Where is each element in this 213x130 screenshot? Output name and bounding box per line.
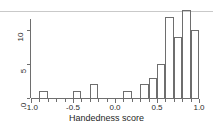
histogram-bar: [140, 84, 148, 98]
x-axis-tick-label: -0.5: [61, 103, 85, 112]
x-axis-tick-label: 1.0: [187, 103, 211, 112]
y-axis-tick: [27, 30, 30, 31]
histogram-bar: [157, 64, 165, 98]
histogram-bar: [123, 91, 131, 98]
plot-area: [31, 10, 199, 98]
histogram-bar: [165, 17, 173, 98]
x-axis-tick-minor: [140, 99, 141, 102]
x-axis-tick-minor: [81, 99, 82, 102]
histogram-bar: [149, 78, 157, 98]
histogram-bar: [39, 91, 47, 98]
y-axis-tick: [27, 98, 30, 99]
histogram-bar: [73, 91, 81, 98]
x-axis-tick-minor: [132, 99, 133, 102]
histogram-bar: [191, 30, 199, 98]
histogram-bar: [174, 37, 182, 98]
y-axis-tick-label: 10: [0, 25, 26, 43]
x-axis-tick-minor: [123, 99, 124, 102]
x-axis-tick-minor: [191, 99, 192, 102]
x-axis-tick-minor: [39, 99, 40, 102]
x-axis-tick-label: 0.5: [145, 103, 169, 112]
histogram-bar: [182, 10, 190, 98]
y-axis-tick-label: 5: [0, 59, 26, 77]
x-axis-tick-minor: [56, 99, 57, 102]
y-axis-line: [30, 19, 31, 98]
x-axis-title: Handedness score: [0, 113, 213, 123]
x-axis-tick-minor: [90, 99, 91, 102]
histogram-bar: [90, 84, 98, 98]
histogram-figure: 0510 -1.0-0.50.00.51.0 Handedness score: [0, 0, 213, 130]
x-axis-tick-minor: [65, 99, 66, 102]
x-axis-tick-minor: [174, 99, 175, 102]
x-axis-tick-minor: [98, 99, 99, 102]
x-axis-tick-minor: [48, 99, 49, 102]
x-axis-tick-minor: [165, 99, 166, 102]
x-axis-tick-minor: [182, 99, 183, 102]
x-axis-tick-minor: [107, 99, 108, 102]
histogram-bars: [31, 10, 199, 98]
x-axis-tick-minor: [149, 99, 150, 102]
y-axis-tick: [27, 64, 30, 65]
x-axis-tick-label: -1.0: [19, 103, 43, 112]
x-axis-tick-label: 0.0: [103, 103, 127, 112]
